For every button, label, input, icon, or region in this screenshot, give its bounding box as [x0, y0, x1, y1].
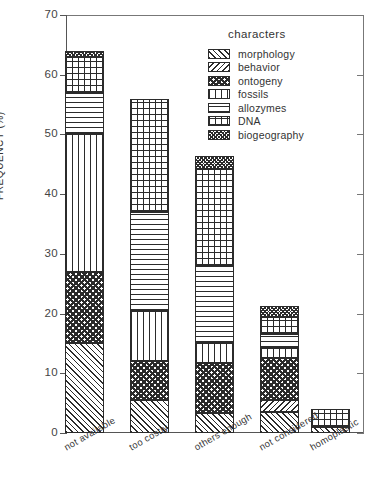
chart-container: FREQUENCY (%) 010203040506070 not availa…: [0, 0, 374, 481]
y-tick-label: 30: [24, 247, 58, 259]
bar-segment-fossils: [130, 311, 169, 362]
legend-title: characters: [228, 28, 358, 40]
bar-segment-ontogeny: [130, 361, 169, 400]
y-tick-mark-right: [357, 373, 364, 374]
y-tick-label: 10: [24, 366, 58, 378]
legend-item-allozymes[interactable]: allozymes: [208, 101, 358, 115]
legend-swatch-biogeography: [208, 130, 230, 140]
y-tick-label: 0: [24, 426, 58, 438]
bar-segment-fossils: [195, 343, 234, 362]
legend-item-biogeography[interactable]: biogeography: [208, 128, 358, 142]
bar-segment-biogeography: [195, 156, 234, 169]
legend-swatch-ontogeny: [208, 76, 230, 86]
legend-label-allozymes: allozymes: [238, 102, 286, 114]
legend-rows: morphologybehaviorontogenyfossilsallozym…: [208, 47, 358, 142]
legend: characters morphologybehaviorontogenyfos…: [208, 28, 358, 142]
bar-segment-DNA: [65, 57, 104, 93]
legend-label-morphology: morphology: [238, 48, 295, 60]
bar-segment-fossils: [260, 348, 299, 358]
bar-segment-DNA: [130, 99, 169, 212]
y-tick-label: 50: [24, 127, 58, 139]
legend-item-DNA[interactable]: DNA: [208, 115, 358, 129]
y-tick-label: 60: [24, 68, 58, 80]
legend-label-behavior: behavior: [238, 61, 280, 73]
y-tick-label: 70: [24, 8, 58, 20]
bar-segment-allozymes: [260, 334, 299, 348]
bar-segment-ontogeny: [260, 358, 299, 400]
legend-swatch-DNA: [208, 116, 230, 126]
bar-segment-ontogeny: [195, 363, 234, 414]
bar-segment-DNA: [260, 317, 299, 334]
y-tick-label: 20: [24, 307, 58, 319]
bar-segment-allozymes: [130, 212, 169, 311]
legend-swatch-allozymes: [208, 103, 230, 113]
y-axis-title: FREQUENCY (%): [0, 111, 5, 200]
y-tick-mark-right: [357, 134, 364, 135]
y-tick-mark-right: [357, 254, 364, 255]
y-tick-mark-right: [357, 314, 364, 315]
legend-item-fossils[interactable]: fossils: [208, 88, 358, 102]
legend-item-morphology[interactable]: morphology: [208, 47, 358, 61]
y-tick-mark-right: [357, 433, 364, 434]
bar-segment-biogeography: [260, 306, 299, 317]
y-tick-label: 40: [24, 187, 58, 199]
legend-label-fossils: fossils: [238, 88, 269, 100]
bar-not-available: [65, 15, 104, 433]
bar-segment-fossils: [65, 134, 104, 271]
y-tick-mark: [60, 433, 67, 434]
bar-segment-morphology: [65, 343, 104, 433]
legend-label-ontogeny: ontogeny: [238, 75, 283, 87]
legend-item-ontogeny[interactable]: ontogeny: [208, 74, 358, 88]
bar-segment-ontogeny: [65, 272, 104, 344]
legend-swatch-behavior: [208, 62, 230, 72]
bar-segment-allozymes: [195, 266, 234, 344]
bar-too-costly: [130, 15, 169, 433]
y-tick-mark-right: [357, 75, 364, 76]
plot-frame-right: [363, 15, 364, 433]
legend-label-DNA: DNA: [238, 115, 261, 127]
legend-label-biogeography: biogeography: [238, 129, 304, 141]
bar-segment-DNA: [195, 169, 234, 266]
bar-segment-behavior: [260, 400, 299, 412]
bar-segment-allozymes: [65, 93, 104, 135]
legend-swatch-fossils: [208, 89, 230, 99]
y-tick-mark-right: [357, 194, 364, 195]
bar-segment-biogeography: [65, 51, 104, 57]
legend-item-behavior[interactable]: behavior: [208, 61, 358, 75]
legend-swatch-morphology: [208, 49, 230, 59]
y-tick-mark-right: [357, 15, 364, 16]
